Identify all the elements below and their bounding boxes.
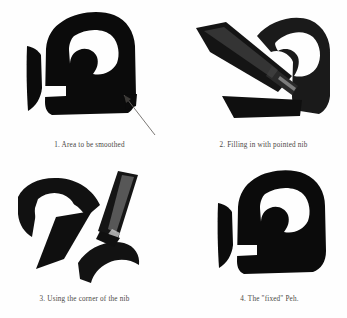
illustration-step-4 [174, 159, 347, 299]
letter-left-stroke [27, 46, 42, 111]
caption-step-2: 2. Filling in with pointed nib [174, 141, 347, 149]
letter-base-stroke [222, 96, 302, 118]
caption-step-4: 4. The "fixed" Peh. [174, 295, 347, 303]
figure-page: 1. Area to be smoothed 2. Filling in wit… [0, 0, 347, 318]
letter-notch [237, 245, 257, 256]
illustration-step-1 [0, 0, 173, 140]
panel-step-1: 1. Area to be smoothed [0, 0, 173, 159]
letter-left-stroke [218, 203, 233, 268]
caption-step-3: 3. Using the corner of the nib [0, 295, 173, 303]
letter-lower-curve [78, 242, 139, 283]
annotation-arrow [124, 95, 155, 135]
panel-step-4: 4. The "fixed" Peh. [174, 159, 347, 318]
letter-peh-body [237, 170, 326, 274]
illustration-step-3 [0, 159, 173, 299]
panel-step-3: 3. Using the corner of the nib [0, 159, 173, 318]
letter-peh-body [45, 12, 136, 115]
letter-notch [45, 86, 66, 97]
illustration-step-2 [174, 0, 347, 140]
panel-step-2: 2. Filling in with pointed nib [174, 0, 347, 159]
caption-step-1: 1. Area to be smoothed [0, 141, 173, 149]
